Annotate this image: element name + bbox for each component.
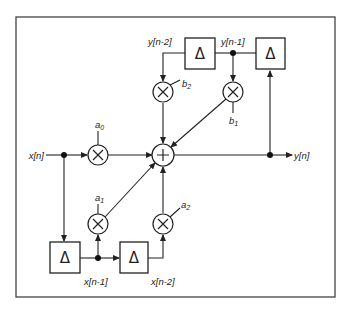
a1-to-adder-arrow	[105, 163, 155, 217]
yn1-junction	[230, 50, 236, 56]
delta-symbol: Δ	[265, 45, 276, 63]
multiplier-a1	[88, 214, 108, 234]
delay-block-x2: Δ	[120, 242, 148, 273]
label-a0: a0	[95, 119, 104, 131]
a2-stem	[170, 208, 180, 217]
label-y-n-1: y[n-1]	[220, 36, 245, 47]
label-a2: a2	[181, 199, 190, 211]
multiplier-a0	[88, 145, 108, 165]
label-x-n: x[n]	[28, 150, 45, 161]
label-y-n-2: y[n-2]	[147, 36, 172, 47]
multiplier-b2	[153, 82, 173, 102]
delay-block-y1: Δ	[256, 38, 285, 69]
label-b1: b1	[229, 115, 238, 127]
yn2-to-b2-arrow	[163, 53, 185, 81]
multiplier-b1	[223, 82, 243, 102]
b1-to-adder-arrow	[171, 99, 226, 147]
b2-stem	[170, 80, 180, 85]
delta-symbol: Δ	[129, 249, 140, 267]
delta-symbol: Δ	[60, 249, 71, 267]
xn1-junction	[95, 255, 101, 261]
output-junction	[267, 152, 273, 158]
label-x-n-2: x[n-2]	[150, 276, 175, 287]
xn2-to-a2-arrow	[148, 235, 163, 258]
signal-flow-diagram: Δ Δ Δ Δ x[n] y[n] x[n-	[0, 0, 350, 312]
input-junction	[61, 152, 67, 158]
delay-block-y2: Δ	[185, 38, 215, 69]
adder	[152, 144, 174, 166]
delay-block-x1: Δ	[50, 242, 80, 273]
label-b2: b2	[182, 78, 191, 90]
label-a1: a1	[95, 192, 104, 204]
label-y-n: y[n]	[293, 150, 310, 161]
multiplier-a2	[153, 214, 173, 234]
label-x-n-1: x[n-1]	[83, 276, 108, 287]
delta-symbol: Δ	[195, 45, 206, 63]
